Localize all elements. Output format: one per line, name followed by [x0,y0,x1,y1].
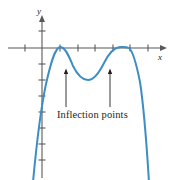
right-arrow-head [108,69,112,75]
graph-svg: y x Inflection points [0,0,171,180]
x-axis-label: x [157,52,162,62]
left-arrow-head [64,69,68,75]
right-inflection-arrow [108,69,112,108]
inflection-points-figure: y x Inflection points [0,0,171,180]
inflection-points-label: Inflection points [57,109,128,120]
left-inflection-arrow [64,69,68,108]
y-axis-label: y [36,6,41,16]
y-axis-arrowhead [39,15,45,22]
x-axis-arrowhead [160,45,167,51]
